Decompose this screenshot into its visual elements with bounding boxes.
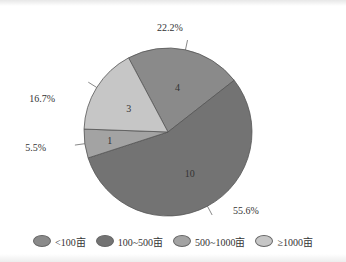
chart-legend: <100亩 100~500亩 500~1000亩 ≥1000亩	[0, 231, 346, 251]
pie-slices	[84, 48, 252, 216]
leader-line	[75, 144, 85, 145]
legend-swatch	[255, 235, 273, 247]
legend-swatch	[33, 235, 51, 247]
slice-count-label: 4	[175, 82, 180, 93]
slice-percent-label: 16.7%	[29, 93, 55, 104]
legend-label: 500~1000亩	[195, 234, 245, 249]
legend-item-ge1000: ≥1000亩	[255, 234, 313, 249]
legend-swatch	[96, 235, 114, 247]
leader-line	[185, 40, 187, 50]
legend-label: ≥1000亩	[277, 234, 313, 249]
bottom-text-fragment	[0, 254, 346, 262]
legend-swatch	[173, 235, 191, 247]
leader-line	[88, 82, 96, 87]
legend-item-500-1000: 500~1000亩	[173, 234, 245, 249]
pie-chart: 422.2%1055.6%15.5%316.7%	[0, 0, 346, 262]
slice-percent-label: 55.6%	[233, 205, 259, 216]
slice-percent-label: 5.5%	[25, 142, 46, 153]
legend-label: <100亩	[55, 234, 86, 249]
slice-count-label: 3	[126, 103, 131, 114]
leader-line	[207, 206, 212, 215]
legend-item-100-500: 100~500亩	[96, 234, 163, 249]
legend-item-lt100: <100亩	[33, 234, 86, 249]
slice-count-label: 1	[107, 135, 112, 146]
legend-label: 100~500亩	[118, 234, 163, 249]
slice-percent-label: 22.2%	[157, 22, 183, 33]
slice-count-label: 10	[185, 168, 195, 179]
